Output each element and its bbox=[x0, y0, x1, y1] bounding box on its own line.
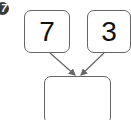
answer-box[interactable] bbox=[44, 76, 111, 120]
arrow-left-to-answer bbox=[50, 53, 75, 75]
arrow-right-to-answer bbox=[81, 53, 104, 75]
part-box-left: 7 bbox=[24, 10, 70, 53]
part-value-right: 3 bbox=[101, 16, 117, 48]
part-value-left: 7 bbox=[39, 16, 55, 48]
part-box-right: 3 bbox=[87, 10, 131, 53]
